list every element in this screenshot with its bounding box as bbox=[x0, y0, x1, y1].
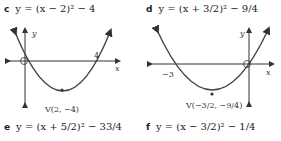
parabola-d bbox=[157, 30, 268, 90]
svg-text:V(−3/2, −9/4): V(−3/2, −9/4) bbox=[185, 101, 242, 110]
svg-text:y: y bbox=[239, 29, 245, 38]
svg-text:x: x bbox=[266, 68, 271, 77]
graph-c: y x 4 V(2, −4) bbox=[8, 29, 120, 114]
svg-text:−3: −3 bbox=[162, 70, 174, 79]
vertex-point bbox=[210, 92, 213, 95]
graphs: y x 4 V(2, −4) y x −3 V(−3/2, −9/4) bbox=[0, 0, 281, 141]
svg-text:y: y bbox=[31, 29, 37, 38]
svg-text:4: 4 bbox=[94, 51, 99, 60]
vertex-point bbox=[60, 88, 63, 91]
svg-text:x: x bbox=[115, 64, 120, 73]
graph-d: y x −3 V(−3/2, −9/4) bbox=[150, 29, 272, 110]
svg-text:V(2, −4): V(2, −4) bbox=[44, 105, 79, 114]
